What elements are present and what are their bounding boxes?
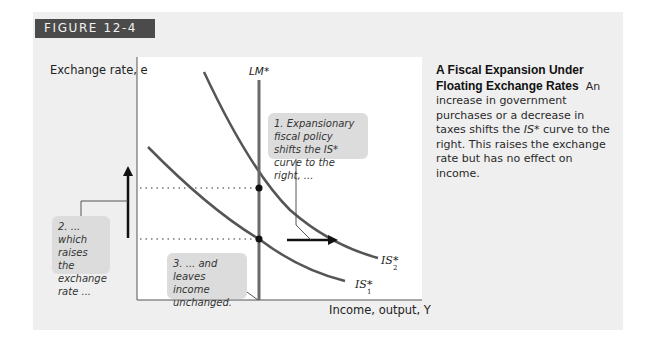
exchange-rate-arrow-head (123, 166, 133, 176)
callout2-leader (81, 201, 128, 216)
equilibrium-point-low (256, 236, 263, 243)
callout-exchange-rate: 2. ... which raises the exchange rate ..… (52, 216, 110, 274)
callout-income-unchanged: 3. ... and leaves income unchanged. (167, 253, 247, 299)
shift-arrow-head (328, 235, 338, 245)
is2-subscript: 2 (393, 264, 397, 272)
callout-fiscal-policy: 1. Expansionary fiscal policy shifts the… (268, 113, 368, 159)
caption-title: A Fiscal Expansion Under Floating Exchan… (436, 63, 584, 93)
is1-subscript: 1 (367, 288, 371, 296)
equilibrium-point-high (256, 185, 263, 192)
caption-body-italic: IS* (524, 123, 540, 136)
lm-label: LM* (249, 65, 269, 77)
y-axis-label: Exchange rate, e (50, 63, 148, 77)
x-axis-label: Income, output, Y (329, 303, 431, 317)
figure-caption: A Fiscal Expansion Under Floating Exchan… (436, 63, 616, 181)
